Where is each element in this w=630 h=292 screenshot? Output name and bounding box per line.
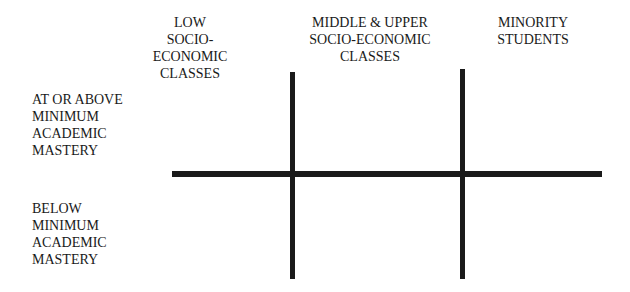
horizontal-divider-line	[172, 171, 602, 177]
column-header-low-ses: LOW SOCIO-ECONOMIC CLASSES	[130, 14, 250, 82]
row-header-below: BELOW MINIMUM ACADEMIC MASTERY	[32, 200, 152, 268]
vertical-divider-line-2	[460, 69, 465, 279]
column-header-middle-upper-ses: MIDDLE & UPPER SOCIO-ECONOMIC CLASSES	[300, 14, 440, 65]
column-header-minority-students: MINORITY STUDENTS	[478, 14, 588, 48]
vertical-divider-line-1	[290, 72, 295, 279]
row-header-at-or-above: AT OR ABOVE MINIMUM ACADEMIC MASTERY	[32, 91, 152, 159]
